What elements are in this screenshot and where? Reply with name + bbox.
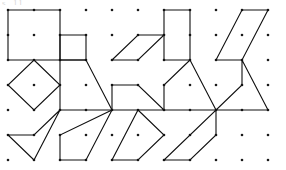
quadrilateral-concave-dart-right	[216, 60, 268, 110]
grid-dot	[7, 159, 10, 162]
grid-dot	[241, 134, 244, 137]
grid-dot	[267, 134, 270, 137]
quadrilateral-flat-parallelogram	[112, 35, 164, 60]
shape-layer	[8, 10, 268, 160]
grid-dot	[215, 34, 218, 37]
clipped-header-text: s. 11	[2, 0, 24, 5]
quadrilateral-concave-arrowhead	[8, 110, 60, 160]
grid-dot	[137, 134, 140, 137]
worksheet-canvas: s. 11	[0, 0, 286, 170]
grid-dot	[215, 84, 218, 87]
grid-dot	[111, 134, 114, 137]
grid-dot	[33, 34, 36, 37]
quadrilateral-small-square	[60, 35, 86, 60]
grid-dot	[33, 84, 36, 87]
grid-dot	[241, 34, 244, 37]
quadrilateral-vertical-rectangle	[164, 10, 190, 60]
grid-dot	[85, 9, 88, 12]
dot-grid-figure	[0, 0, 286, 170]
grid-dot	[215, 159, 218, 162]
quadrilateral-right-trapezoid-low	[112, 85, 164, 110]
grid-dot	[111, 9, 114, 12]
grid-dot	[267, 159, 270, 162]
grid-dot	[137, 9, 140, 12]
grid-dot	[267, 84, 270, 87]
grid-dot	[85, 84, 88, 87]
grid-dot	[7, 109, 10, 112]
grid-dot	[267, 34, 270, 37]
grid-dot	[111, 34, 114, 37]
grid-dot	[241, 159, 244, 162]
grid-dot	[215, 9, 218, 12]
grid-dot	[267, 59, 270, 62]
grid-dot	[85, 134, 88, 137]
grid-dot	[189, 84, 192, 87]
quadrilateral-thin-parallelogram	[164, 110, 216, 160]
